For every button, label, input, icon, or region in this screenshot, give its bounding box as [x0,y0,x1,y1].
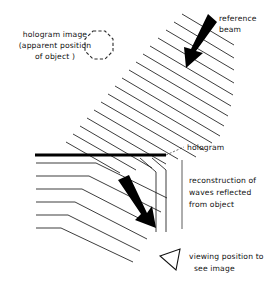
viewing-position-label: viewing position to see image [189,252,264,273]
reference-beam-arrow-group [184,14,217,68]
wavefront-line [101,102,196,157]
wavefront-line [108,94,204,150]
hologram-label: hologram [187,143,224,152]
reconstruction-wave [36,228,133,262]
reference-beam-line-1: reference [219,14,257,23]
hologram-diagram: hologram image (apparent position of obj… [0,0,274,281]
object-label-line-3: of object ) [35,52,75,61]
object-label-line-2: (apparent position [19,41,92,50]
reconstruction-line-2: waves reflected [189,188,251,197]
wavefront-line [136,62,228,116]
wavefront-line [66,142,120,173]
reconstructed-wavefronts [36,158,167,262]
object-label-line-1: hologram image [23,30,88,39]
reconstruction-line-1: reconstruction of [189,176,256,185]
reconstruction-wave [36,202,147,239]
viewer-marker-group [160,249,180,270]
left-pointing-triangle-icon [160,249,180,270]
reference-beam-line-2: beam [219,25,241,34]
wavefront-line [115,86,212,143]
diagram-canvas: hologram image (apparent position of obj… [0,0,274,281]
reconstruction-line-3: from object [189,200,234,209]
apparent-object-label: hologram image (apparent position of obj… [19,30,92,61]
viewing-line-1: viewing position to [189,252,264,261]
wavefront-line [87,118,166,164]
wavefront-line [122,78,220,136]
reconstruction-label: reconstruction of waves reflected from o… [189,176,256,209]
wavefront-line [80,126,152,168]
wavefront-line [73,134,136,170]
reconstruction-wave [36,215,140,251]
viewing-line-2: see image [194,264,235,273]
wavefront-line [94,110,178,159]
thick-down-left-arrow-icon [184,14,217,68]
reconstruction-wave [36,163,167,198]
wavefront-line [129,70,224,126]
reference-beam-label: reference beam [219,14,257,34]
